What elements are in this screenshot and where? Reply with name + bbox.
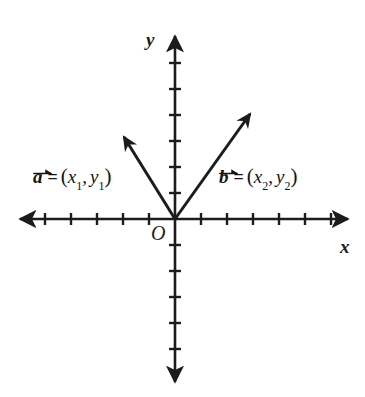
vector-a-arrow: [124, 137, 175, 219]
y-axis-group: [169, 36, 181, 382]
vector-b-component-x: x: [254, 166, 262, 187]
vector-a-close-paren: ): [104, 164, 111, 188]
vector-b-comma: ,: [268, 166, 276, 187]
vector-a-component-x: x: [68, 166, 76, 187]
vector-a-label: a =(x1,y1): [33, 166, 111, 190]
vector-a-symbol: a: [33, 167, 44, 186]
vector-a-open-paren: (: [61, 164, 68, 188]
vector-a-component-y-subscript: 1: [98, 179, 104, 193]
coordinate-plane-svg: [0, 0, 365, 397]
origin-label: O: [151, 223, 165, 243]
x-axis-label: x: [340, 237, 350, 256]
y-axis-label: y: [146, 30, 154, 49]
vector-b-label: b =(x2,y2): [219, 166, 297, 190]
vector-b-close-paren: ): [290, 164, 297, 188]
vector-b-component-y-subscript: 2: [284, 179, 290, 193]
vector-b-symbol: b: [219, 167, 230, 186]
vector-a-component-x-subscript: 1: [76, 179, 82, 193]
vector-b-component-x-subscript: 2: [262, 179, 268, 193]
vector-diagram-figure: y x O a =(x1,y1) b =(x2,y2): [0, 0, 365, 397]
vector-b-open-paren: (: [247, 164, 254, 188]
x-axis-group: [20, 213, 348, 225]
vector-a-comma: ,: [82, 166, 90, 187]
vector-a-equals: =: [44, 167, 61, 187]
vector-b-equals: =: [230, 167, 247, 187]
